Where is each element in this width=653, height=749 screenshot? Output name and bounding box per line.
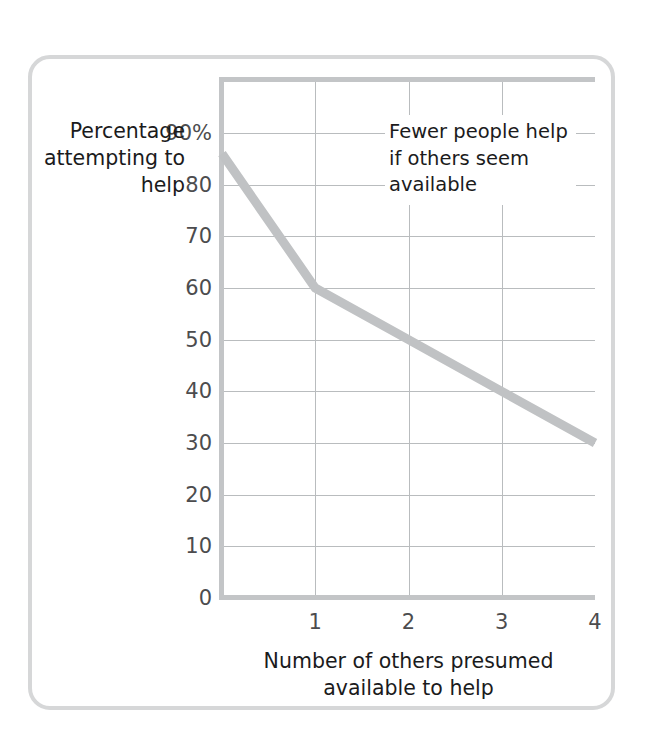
x-axis-tick-label: 4 — [575, 612, 615, 633]
y-axis-tick-label: 20 — [142, 485, 212, 506]
chart-annotation-callout: Fewer people help if others seem availab… — [385, 115, 576, 205]
y-axis-tick-label: 70 — [142, 226, 212, 247]
y-axis-title: Percentage attempting to help — [30, 118, 185, 199]
y-axis-tick-label: 30 — [142, 433, 212, 454]
x-axis-tick-labels: 1234 — [0, 612, 653, 642]
y-axis-tick-label: 10 — [142, 536, 212, 557]
x-axis-tick-label: 3 — [482, 612, 522, 633]
x-axis-tick-label: 1 — [295, 612, 335, 633]
x-axis-tick-label: 2 — [389, 612, 429, 633]
x-axis-title: Number of others presumed available to h… — [222, 648, 595, 702]
y-axis-tick-label: 50 — [142, 330, 212, 351]
y-axis-tick-label: 0 — [142, 588, 212, 609]
y-axis-tick-label: 40 — [142, 381, 212, 402]
chart-figure: 0102030405060708090% 1234 Percentage att… — [0, 0, 653, 749]
y-axis-tick-label: 60 — [142, 278, 212, 299]
